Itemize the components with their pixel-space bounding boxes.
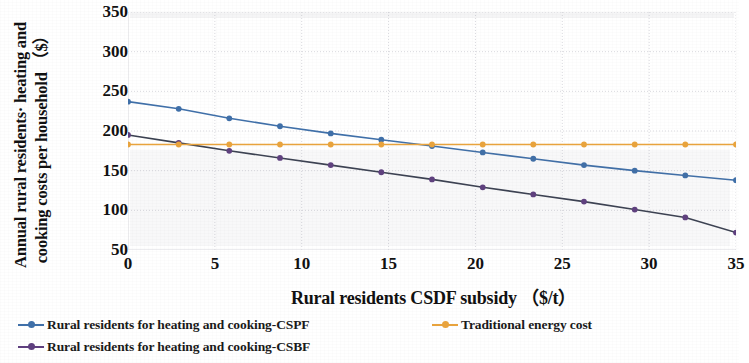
x-tick-5: 5: [195, 254, 235, 274]
legend-item-csbf[interactable]: Rural residents for heating and cooking-…: [18, 339, 310, 355]
legend-marker-traditional: [432, 319, 458, 331]
series-point: [682, 173, 688, 179]
legend-marker-cspf: [18, 319, 44, 331]
series-point: [632, 168, 638, 174]
legend-item-traditional[interactable]: Traditional energy cost: [432, 317, 592, 333]
series-point: [378, 169, 384, 175]
series-line-1: [128, 135, 736, 233]
series-point: [733, 142, 736, 148]
x-tick-15: 15: [369, 254, 409, 274]
y-axis-title: Annual rural residents· heating and cook…: [0, 0, 64, 290]
series-point: [328, 130, 334, 136]
series-point: [378, 142, 384, 148]
series-point: [277, 123, 283, 129]
series-point: [128, 132, 131, 138]
y-tick-250: 250: [80, 81, 128, 101]
legend-marker-csbf: [18, 341, 44, 353]
y-tick-100: 100: [80, 200, 128, 220]
series-point: [176, 106, 182, 112]
series-point: [429, 176, 435, 182]
x-tick-30: 30: [629, 254, 669, 274]
gridlines: [128, 12, 736, 250]
series-point: [480, 184, 486, 190]
series-point: [530, 156, 536, 162]
series-point: [328, 162, 334, 168]
x-tick-25: 25: [542, 254, 582, 274]
series-point: [530, 142, 536, 148]
series-point: [176, 142, 182, 148]
series-point: [480, 142, 486, 148]
y-tick-200: 200: [80, 121, 128, 141]
y-tick-300: 300: [80, 42, 128, 62]
y-tick-350: 350: [80, 2, 128, 22]
y-axis-tick-labels: 350 300 250 200 150 100 50: [80, 0, 128, 363]
x-tick-10: 10: [282, 254, 322, 274]
y-tick-150: 150: [80, 161, 128, 181]
series-point: [226, 148, 232, 154]
series-point: [632, 207, 638, 213]
series-point: [128, 99, 131, 105]
x-tick-35: 35: [716, 254, 749, 274]
legend-label-traditional: Traditional energy cost: [461, 317, 592, 333]
series-point: [632, 142, 638, 148]
series-point: [530, 192, 536, 198]
x-tick-0: 0: [108, 254, 148, 274]
legend-label-csbf: Rural residents for heating and cooking-…: [47, 339, 310, 355]
series-point: [480, 150, 486, 156]
series-point: [277, 142, 283, 148]
series-point: [581, 142, 587, 148]
series-point: [733, 230, 736, 236]
series-point: [581, 199, 587, 205]
x-tick-20: 20: [455, 254, 495, 274]
series-point: [128, 142, 131, 148]
series-lines: [128, 99, 736, 236]
legend-item-cspf[interactable]: Rural residents for heating and cooking-…: [18, 317, 310, 333]
series-point: [328, 142, 334, 148]
series-point: [277, 155, 283, 161]
series-point: [682, 215, 688, 221]
plot-area: [128, 12, 736, 250]
series-point: [226, 115, 232, 121]
series-point: [226, 142, 232, 148]
legend-label-cspf: Rural residents for heating and cooking-…: [47, 317, 310, 333]
x-axis-title: Rural residents CSDF subsidy （$/t）: [128, 283, 739, 309]
series-point: [682, 142, 688, 148]
series-point: [581, 162, 587, 168]
series-line-0: [128, 102, 736, 181]
series-point: [429, 142, 435, 148]
series-point: [733, 177, 736, 183]
